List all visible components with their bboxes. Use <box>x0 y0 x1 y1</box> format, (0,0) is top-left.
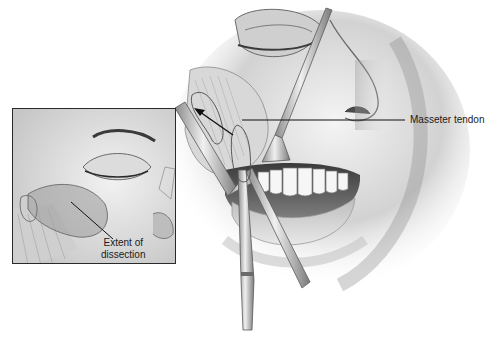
extent-of-dissection-line1: Extent of <box>101 237 145 249</box>
inset-illustration <box>13 109 176 264</box>
figure: Masseter tendon <box>0 0 500 345</box>
inset-external-view: Extent of dissection <box>12 108 176 264</box>
masseter-tendon-label: Masseter tendon <box>410 114 485 126</box>
extent-of-dissection-line2: dissection <box>101 249 145 261</box>
extent-of-dissection-label: Extent of dissection <box>101 237 145 261</box>
upper-teeth <box>258 168 348 196</box>
